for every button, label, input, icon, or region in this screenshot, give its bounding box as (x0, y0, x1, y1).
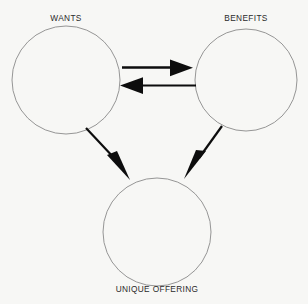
label-unique-offering: UNIQUE OFFERING (47, 284, 267, 294)
arrowhead-right (170, 60, 193, 77)
circle-benefits[interactable] (195, 29, 297, 131)
arrowhead-down-left (184, 150, 206, 179)
arrow-wants-to-unique-offering[interactable] (86, 128, 130, 180)
arrow-benefits-to-wants[interactable] (120, 77, 196, 94)
arrow-benefits-to-unique-offering[interactable] (184, 126, 222, 179)
circle-wants[interactable] (12, 26, 120, 134)
diagram-graphics (0, 0, 308, 304)
arrowhead-down-right (107, 151, 130, 180)
label-benefits: BENEFITS (182, 13, 308, 23)
circle-unique-offering[interactable] (103, 178, 211, 286)
diagram-canvas: WANTS BENEFITS UNIQUE OFFERING (0, 0, 308, 304)
arrow-wants-to-benefits[interactable] (122, 60, 193, 77)
arrowhead-left (120, 77, 143, 94)
label-wants: WANTS (0, 13, 132, 23)
